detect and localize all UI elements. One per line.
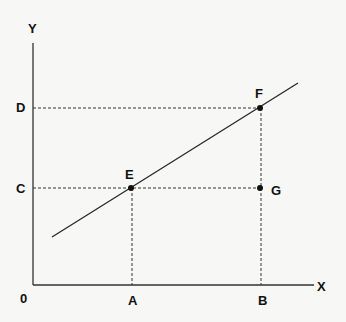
- tick-label-c: C: [16, 181, 26, 196]
- y-axis-label: Y: [28, 21, 37, 36]
- line-diagram: Y X 0 A B C D E F G: [0, 0, 346, 322]
- point-label-g: G: [271, 183, 281, 198]
- tick-label-d: D: [16, 100, 25, 115]
- tick-label-b: B: [258, 293, 267, 308]
- x-axis-label: X: [317, 279, 326, 294]
- point-e: [128, 185, 134, 191]
- point-label-f: F: [255, 86, 263, 101]
- point-f: [257, 105, 263, 111]
- point-g: [257, 185, 263, 191]
- origin-label: 0: [20, 291, 27, 306]
- tick-label-a: A: [128, 293, 138, 308]
- point-label-e: E: [125, 167, 134, 182]
